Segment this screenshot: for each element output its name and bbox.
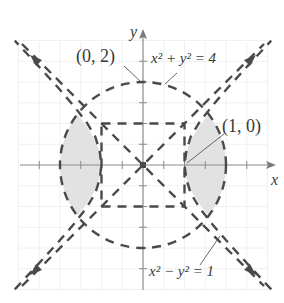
- graph-figure: y x (0, 2) (1, 0) x² + y² = 4 x² − y² = …: [0, 0, 284, 303]
- x-axis-label: x: [270, 171, 278, 188]
- origin-marker: [140, 162, 146, 168]
- leader-point-top: [124, 66, 140, 81]
- hyperbola-equation-label: x² − y² = 1: [148, 263, 214, 279]
- circle-equation-label: x² + y² = 4: [150, 50, 217, 66]
- point-right-label: (1, 0): [222, 116, 261, 137]
- point-top-label: (0, 2): [76, 46, 115, 67]
- leader-hyperbola-eq: [200, 236, 220, 265]
- y-axis-label: y: [128, 23, 138, 41]
